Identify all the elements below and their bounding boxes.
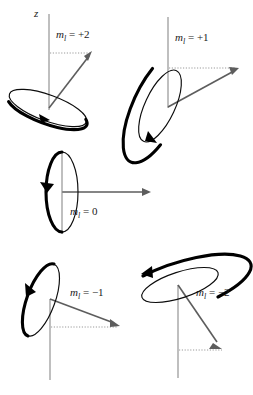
panel-m-minus-2: ml = −2 [138, 254, 251, 378]
momentum-vector-arrowhead-plus-2 [84, 51, 92, 61]
orbit-ellipse-plus-1 [130, 64, 190, 147]
momentum-vector-arrowhead-minus-2 [209, 343, 222, 349]
label-symbol-plus-2: m [56, 28, 64, 40]
label-value-minus-2: −2 [218, 286, 230, 298]
spin-direction-arrowhead-zero [40, 182, 54, 193]
panel-m-minus-1: ml = −1 [15, 260, 120, 380]
label-symbol-plus-1: m [175, 31, 183, 43]
label-equals-minus-2: = [206, 286, 218, 298]
quantum-number-label-plus-2: ml = +2 [56, 28, 90, 43]
z-axis-label: z [33, 7, 39, 19]
momentum-vector-arrowhead-zero [142, 188, 151, 196]
momentum-vector-arrowhead-minus-1 [110, 319, 120, 327]
label-symbol-minus-2: m [196, 286, 204, 298]
quantum-number-label-minus-1: ml = −1 [70, 286, 104, 301]
orbit-ellipse-thick-arc-minus-1 [22, 264, 54, 336]
label-value-plus-1: +1 [197, 31, 209, 43]
diagram-canvas: z ml = +2 ml = +1 [0, 0, 253, 395]
label-equals-zero: = [80, 205, 92, 217]
spin-direction-arrowhead-plus-1 [145, 131, 157, 143]
panel-m-plus-2: z ml = +2 [5, 7, 92, 134]
momentum-vector-minus-1 [50, 299, 114, 323]
label-value-minus-1: −1 [92, 286, 104, 298]
label-value-zero: 0 [92, 205, 98, 217]
orbit-ellipse-thick-arc-plus-2 [9, 102, 88, 130]
label-symbol-minus-1: m [70, 286, 78, 298]
momentum-vector-plus-2 [49, 56, 89, 108]
angular-momentum-figure: z ml = +2 ml = +1 [0, 0, 253, 395]
orbit-ellipse-thick-arc-plus-1 [123, 69, 160, 163]
label-equals-plus-1: = [185, 31, 197, 43]
label-value-plus-2: +2 [78, 28, 90, 40]
panel-m-plus-1: ml = +1 [123, 17, 239, 163]
label-symbol-zero: m [70, 205, 78, 217]
label-equals-minus-1: = [80, 286, 92, 298]
label-equals-plus-2: = [66, 28, 78, 40]
quantum-number-label-plus-1: ml = +1 [175, 31, 209, 46]
orbit-ellipse-thick-arc-zero [46, 152, 62, 232]
quantum-number-label-minus-2: ml = −2 [196, 286, 230, 301]
